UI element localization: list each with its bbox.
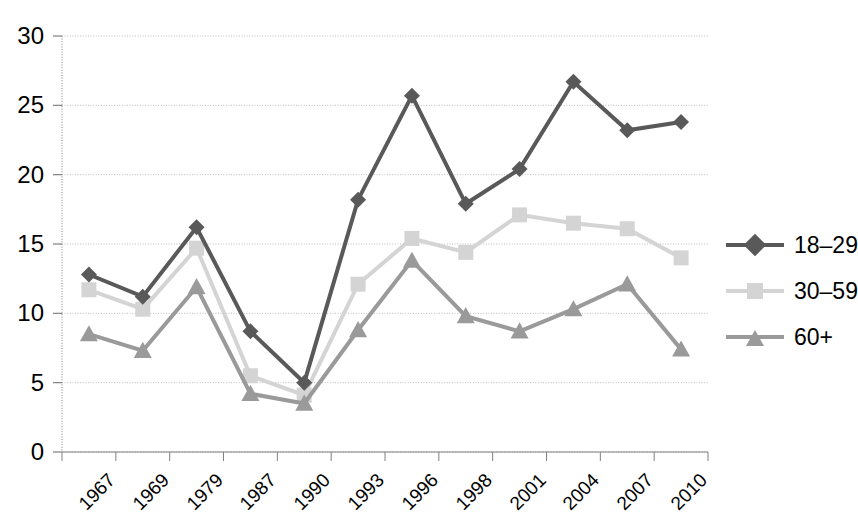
data-point: [189, 241, 204, 256]
data-point: [81, 282, 96, 297]
data-point: [351, 277, 366, 292]
data-point: [404, 231, 419, 246]
data-point: [618, 275, 636, 291]
square-marker-icon: [747, 283, 763, 299]
legend-label: 18–29: [784, 234, 858, 257]
series-line: [89, 215, 681, 395]
data-point: [620, 221, 635, 236]
data-point: [188, 278, 206, 294]
triangle-marker-icon: [746, 330, 764, 346]
series-layer: [80, 74, 690, 411]
data-point: [81, 267, 97, 283]
data-point: [404, 88, 420, 104]
series-30-59: [81, 207, 688, 402]
data-point: [512, 207, 527, 222]
y-axis-tick-label: 20: [0, 163, 44, 187]
diamond-marker-icon: [744, 234, 767, 257]
y-axis-tick-label: 0: [0, 440, 44, 464]
legend-item[interactable]: 60+: [726, 314, 856, 360]
data-point: [566, 216, 581, 231]
data-point: [458, 245, 473, 260]
y-axis-tick-label: 15: [0, 232, 44, 256]
gridlines: [62, 36, 708, 452]
series-line: [89, 82, 681, 383]
chart-legend: 18–2930–5960+: [726, 222, 856, 360]
y-axis-tick-label: 30: [0, 24, 44, 48]
data-point: [350, 192, 366, 208]
x-axis-ticks: [53, 36, 708, 461]
series-18-29: [81, 74, 689, 391]
legend-item[interactable]: 30–59: [726, 268, 856, 314]
legend-swatch: [726, 324, 784, 350]
y-axis-tick-label: 5: [0, 371, 44, 395]
data-point: [673, 114, 689, 130]
y-axis-tick-label: 25: [0, 93, 44, 117]
data-point: [403, 252, 421, 268]
data-point: [80, 325, 98, 341]
series-line: [89, 261, 681, 404]
legend-item[interactable]: 18–29: [726, 222, 856, 268]
data-point: [241, 385, 259, 401]
legend-label: 60+: [784, 326, 833, 349]
legend-swatch: [726, 232, 784, 258]
legend-label: 30–59: [784, 280, 858, 303]
data-point: [674, 250, 689, 265]
y-axis-tick-label: 10: [0, 301, 44, 325]
legend-swatch: [726, 278, 784, 304]
